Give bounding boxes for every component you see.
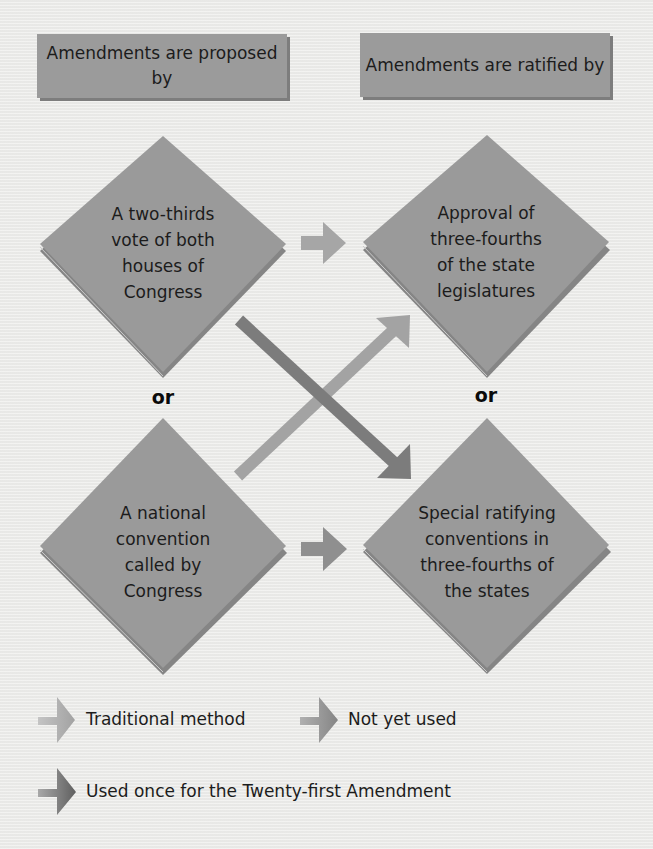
text-line: houses of — [83, 253, 243, 279]
text-line: the states — [401, 578, 573, 604]
ratification-method-1: Approval of three-fourths of the state l… — [406, 200, 566, 304]
or-label-proposal: or — [133, 386, 193, 408]
or-label-ratification: or — [456, 384, 516, 406]
proposal-method-2: A national convention called by Congress — [83, 500, 243, 604]
legend-used-once-arrow-icon — [38, 768, 76, 815]
text-line: of the state — [406, 252, 566, 278]
legend-traditional-arrow-icon — [38, 697, 75, 743]
text-line: A two-thirds — [83, 201, 243, 227]
text-line: three-fourths of — [401, 552, 573, 578]
proposal-method-1: A two-thirds vote of both houses of Cong… — [83, 201, 243, 305]
text-line: conventions in — [401, 526, 573, 552]
text-line: convention — [83, 526, 243, 552]
text-line: three-fourths — [406, 226, 566, 252]
legend-used-once-label: Used once for the Twenty-first Amendment — [86, 781, 451, 801]
text-line: Special ratifying — [401, 500, 573, 526]
text-line: vote of both — [83, 227, 243, 253]
arrow-not-yet-used-icon — [301, 527, 347, 571]
text-line: Approval of — [406, 200, 566, 226]
text-line: A national — [83, 500, 243, 526]
text-line: called by — [83, 552, 243, 578]
arrow-traditional-icon — [301, 222, 346, 264]
text-line: legislatures — [406, 278, 566, 304]
text-line: Congress — [83, 279, 243, 305]
legend-not-yet-used-arrow-icon — [300, 697, 338, 743]
legend-traditional-label: Traditional method — [86, 709, 246, 729]
legend-not-yet-used-label: Not yet used — [348, 709, 457, 729]
ratification-method-2: Special ratifying conventions in three-f… — [401, 500, 573, 604]
text-line: Congress — [83, 578, 243, 604]
